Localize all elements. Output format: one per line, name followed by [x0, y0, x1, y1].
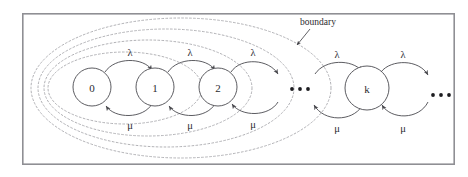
diagram-canvas: 0 1 2 k λ λ λ λ λ μ μ μ μ μ	[0, 0, 468, 177]
ellipsis-dot	[306, 87, 310, 91]
state-label-0: 0	[89, 82, 95, 94]
tail-ellipsis-dots	[431, 93, 451, 97]
mu-label-3: μ	[334, 123, 340, 134]
mu-label-2: μ	[250, 119, 256, 130]
state-label-1: 1	[152, 82, 158, 94]
ellipsis-dot	[290, 87, 294, 91]
ellipsis-dot	[439, 93, 443, 97]
gap-ellipsis-dots	[290, 87, 310, 91]
figure-container: 0 1 2 k λ λ λ λ λ μ μ μ μ μ	[0, 0, 468, 177]
boundary-annotation-label: boundary	[300, 17, 336, 27]
ellipsis-dot	[298, 87, 302, 91]
state-label-k: k	[364, 83, 370, 95]
mu-label-4: μ	[400, 123, 406, 134]
mu-label-1: μ	[187, 120, 193, 131]
state-label-2: 2	[215, 82, 221, 94]
ellipsis-dot	[431, 93, 435, 97]
mu-label-0: μ	[127, 120, 133, 131]
ellipsis-dot	[447, 93, 451, 97]
